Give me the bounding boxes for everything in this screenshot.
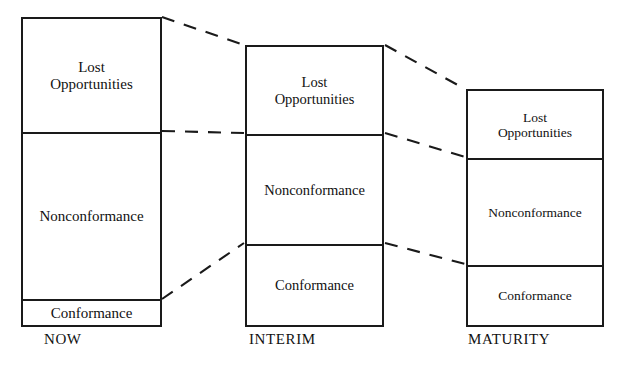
connector-now-conf-divider-to-interim-conf-divider — [162, 243, 244, 299]
segment-interim-nonconformance: Nonconformance — [247, 134, 382, 243]
segment-now-nonconformance: Nonconformance — [23, 132, 160, 299]
segment-maturity-nonconformance: Nonconformance — [468, 158, 602, 264]
segment-label: Lost Opportunities — [272, 74, 358, 106]
segment-label: Nonconformance — [485, 205, 585, 220]
segment-label: Lost Opportunities — [47, 59, 136, 93]
segment-label: Nonconformance — [261, 182, 368, 198]
caption-maturity: MATURITY — [468, 331, 550, 348]
caption-interim: INTERIM — [249, 331, 316, 348]
segment-now-conformance: Conformance — [23, 299, 160, 325]
segment-maturity-conformance: Conformance — [468, 265, 602, 325]
column-maturity: Lost Opportunities Nonconformance Confor… — [466, 89, 604, 327]
diagram-canvas: Lost Opportunities Nonconformance Confor… — [0, 0, 625, 367]
segment-label: Conformance — [495, 288, 574, 303]
column-now: Lost Opportunities Nonconformance Confor… — [21, 17, 162, 327]
caption-now: NOW — [44, 331, 82, 348]
segment-label: Nonconformance — [36, 208, 146, 225]
column-interim: Lost Opportunities Nonconformance Confor… — [245, 45, 384, 327]
segment-label: Conformance — [48, 305, 136, 322]
connector-interim-top-to-maturity-top — [385, 45, 465, 89]
segment-label: Lost Opportunities — [495, 110, 575, 140]
segment-interim-lost-opportunities: Lost Opportunities — [247, 47, 382, 134]
segment-maturity-lost-opportunities: Lost Opportunities — [468, 91, 602, 158]
segment-label: Conformance — [272, 277, 357, 293]
connector-interim-conf-divider-to-maturity-conf-divider — [385, 243, 465, 264]
connector-now-lost-divider-to-interim-lost-divider — [162, 131, 244, 133]
segment-now-lost-opportunities: Lost Opportunities — [23, 19, 160, 132]
connector-now-top-to-interim-top — [162, 17, 244, 45]
segment-interim-conformance: Conformance — [247, 244, 382, 325]
connector-interim-lost-divider-to-maturity-lost-divider — [385, 133, 465, 157]
